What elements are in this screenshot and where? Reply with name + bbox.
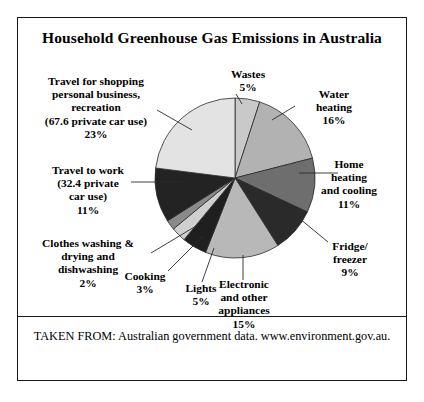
pie-label-home-heating: Home heating and cooling 11%: [306, 158, 392, 211]
pie-label-travel-to-work: Travel to work (32.4 private car use) 11…: [40, 164, 136, 217]
pie-chart: Wastes 5% Water heating 16% Home heating…: [18, 18, 408, 382]
source-caption: TAKEN FROM: Australian government data. …: [18, 329, 406, 344]
pie-slice: [156, 98, 235, 178]
pie-label-water-heating: Water heating 16%: [297, 88, 371, 128]
footer-divider: [18, 316, 406, 317]
chart-figure: Household Greenhouse Gas Emissions in Au…: [17, 17, 407, 381]
pie-label-clothes-washing: Clothes washing & drying and dishwashing…: [26, 237, 150, 290]
pie-label-travel-shopping: Travel for shopping personal business, r…: [30, 75, 162, 141]
pie-slice-group: [155, 98, 315, 258]
pie-label-fridge-freezer: Fridge/ freezer 9%: [318, 240, 382, 280]
leader-line-fridge-freezer: [294, 214, 328, 242]
pie-label-wastes: Wastes 5%: [210, 68, 286, 94]
